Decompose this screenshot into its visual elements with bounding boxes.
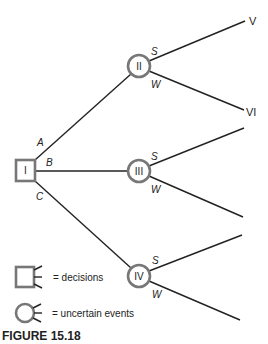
- legend-decision-label: = decisions: [53, 272, 103, 283]
- branch-label-iii-w: W: [151, 184, 162, 195]
- edge-a: [35, 74, 131, 160]
- leaf-label-vi: VI: [246, 106, 256, 118]
- edge-ii-s: [149, 21, 245, 61]
- edge-c: [35, 181, 131, 268]
- edge-iii-s: [149, 128, 244, 166]
- node-label-i: I: [24, 165, 27, 176]
- legend-decision-icon: [16, 266, 42, 288]
- figure-caption: FIGURE 15.18: [2, 329, 81, 343]
- node-label-iii: III: [135, 166, 143, 177]
- decision-tree-diagram: I II III IV A B C S W S W S W V VI = dec…: [0, 0, 268, 344]
- edge-iii-w: [149, 176, 243, 217]
- branch-label-iv-s: S: [152, 255, 159, 266]
- branch-label-iii-s: S: [151, 151, 158, 162]
- legend-uncertain-label: = uncertain events: [52, 308, 134, 319]
- branch-label-iv-w: W: [152, 289, 163, 300]
- edge-iv-w: [149, 281, 240, 320]
- legend-uncertain-icon: [16, 304, 42, 322]
- branch-label-ii-w: W: [151, 79, 162, 90]
- node-label-iv: IV: [134, 271, 144, 282]
- leaf-label-v: V: [249, 15, 257, 27]
- branch-label-b: B: [46, 157, 53, 168]
- branch-label-a: A: [36, 137, 44, 148]
- branch-label-ii-s: S: [151, 46, 158, 57]
- branch-label-c: C: [36, 191, 44, 202]
- node-label-ii: II: [136, 61, 142, 72]
- edge-iv-s: [149, 235, 242, 271]
- edge-ii-w: [149, 71, 244, 110]
